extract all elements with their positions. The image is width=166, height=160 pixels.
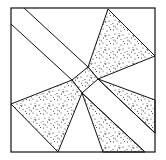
top-right-wedge bbox=[88, 9, 155, 79]
left-wedge-fill bbox=[11, 80, 82, 152]
geometric-diagram bbox=[0, 0, 166, 160]
band-upper-line bbox=[24, 8, 88, 67]
stippled-wedges bbox=[11, 9, 155, 152]
band-lower-line bbox=[11, 24, 72, 80]
